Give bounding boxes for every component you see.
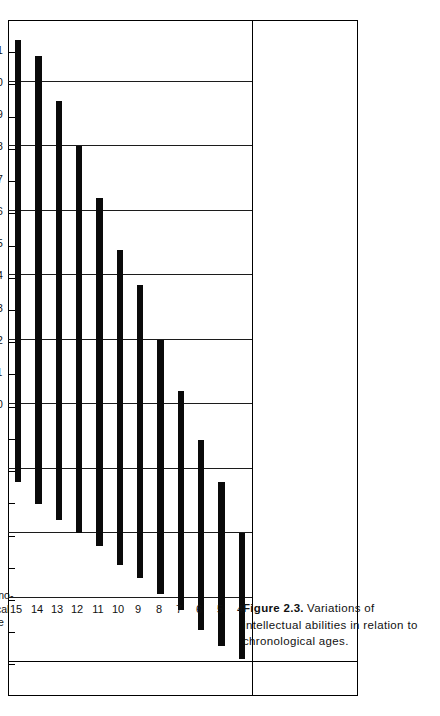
category-label: 13 [48,603,66,615]
axis-tick-label: 15 [0,237,6,249]
gridline [8,81,252,82]
axis-tick-mark [8,310,15,311]
figure-caption: Figure 2.3. Variations of intellectual a… [243,600,423,650]
category-label: 12 [68,603,86,615]
plot-area: 151413121110987654Chrono-logicalAge [8,20,252,696]
axis-tick-label: 18 [0,140,6,152]
gridline [8,403,252,404]
axis-tick-mark [8,181,15,182]
range-bar [35,56,41,504]
axis-tick-mark [8,503,15,504]
value-axis-line [8,661,358,662]
range-bar [96,198,102,546]
axis-tick-label: 3 [0,624,6,636]
axis-tick-label: 9 [0,430,6,442]
axis-tick-mark [8,632,15,633]
category-label: 6 [190,603,208,615]
axis-tick-label: 4 [0,592,6,604]
axis-tick-label: 10 [0,398,6,410]
range-bar [157,340,163,595]
axis-tick-label: 17 [0,173,6,185]
category-band-divider [252,20,253,696]
axis-tick-label: 20 [0,76,6,88]
axis-tick-mark [8,407,15,408]
axis-tick-mark [8,52,15,53]
figure-number: Figure 2.3. [243,602,304,614]
figure-page: 151413121110987654Chrono-logicalAge Ment… [0,0,440,716]
axis-tick-mark [8,471,15,472]
axis-tick-mark [8,568,15,569]
axis-tick-label: 2 [0,656,6,668]
axis-tick-label: 13 [0,302,6,314]
range-bar [117,250,123,566]
range-bar [218,482,224,646]
range-bar [178,391,184,610]
category-label: 11 [89,603,107,615]
axis-tick-label: 14 [0,269,6,281]
rotated-figure-block: 151413121110987654Chrono-logicalAge Ment… [8,20,358,696]
range-bar [15,40,21,481]
gridline [8,597,252,598]
gridline [8,210,252,211]
range-bar [56,101,62,520]
range-bar [76,146,82,533]
axis-tick-label: 12 [0,334,6,346]
axis-tick-label: 7 [0,495,6,507]
axis-tick-mark [8,85,15,86]
category-label: 10 [109,603,127,615]
axis-tick-mark [8,117,15,118]
axis-tick-label: 11 [0,366,6,378]
axis-tick-mark [8,665,15,666]
gridline [8,468,252,469]
gridline [8,532,252,533]
axis-tick-mark [8,149,15,150]
axis-tick-mark [8,600,15,601]
category-label: 8 [150,603,168,615]
category-label: 14 [28,603,46,615]
axis-tick-label: 21 [0,44,6,56]
category-label: 7 [170,603,188,615]
axis-tick-mark [8,439,15,440]
axis-tick-mark [8,213,15,214]
axis-tick-label: 19 [0,108,6,120]
axis-tick-label: 8 [0,463,6,475]
category-label: 9 [129,603,147,615]
axis-tick-label: 6 [0,527,6,539]
axis-tick-mark [8,278,15,279]
category-label: 5 [211,603,229,615]
category-axis-title-line2: logical [0,602,20,616]
axis-tick-mark [8,375,15,376]
range-bar [198,440,204,630]
axis-tick-mark [8,246,15,247]
gridline [8,339,252,340]
axis-tick-label: 5 [0,559,6,571]
axis-tick-mark [8,536,15,537]
axis-tick-label: 16 [0,205,6,217]
range-bar [137,285,143,578]
axis-tick-mark [8,342,15,343]
gridline [8,274,252,275]
gridline [8,145,252,146]
